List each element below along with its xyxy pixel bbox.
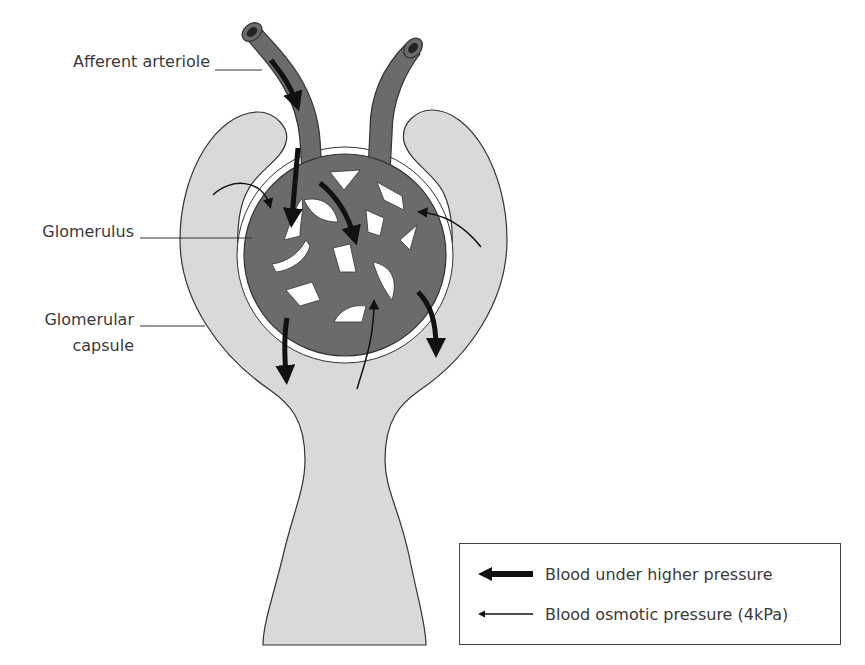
thin-arrow-left-icon [478, 607, 533, 621]
legend-label-osmotic-pressure: Blood osmotic pressure (4kPa) [545, 605, 788, 624]
thick-arrow-left-icon [478, 567, 533, 581]
label-afferent-arteriole: Afferent arteriole [20, 52, 210, 72]
legend-item-high-pressure: Blood under higher pressure [460, 562, 773, 586]
legend-label-high-pressure: Blood under higher pressure [545, 565, 773, 584]
legend: Blood under higher pressure Blood osmoti… [459, 543, 841, 645]
label-glomerulus: Glomerulus [10, 222, 134, 242]
glomerulus [238, 19, 446, 356]
legend-item-osmotic-pressure: Blood osmotic pressure (4kPa) [460, 602, 788, 626]
label-glomerular-capsule-line1: Glomerular [10, 310, 134, 330]
label-glomerular-capsule-line2: capsule [10, 336, 134, 356]
